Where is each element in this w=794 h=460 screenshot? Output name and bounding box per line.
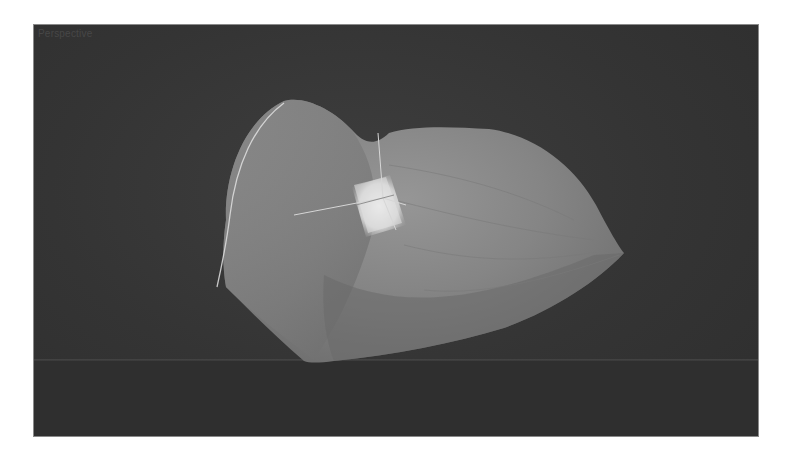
perspective-viewport[interactable]: Perspective [33, 24, 759, 437]
surface-render[interactable] [34, 25, 759, 437]
viewport-label[interactable]: Perspective [38, 28, 92, 39]
